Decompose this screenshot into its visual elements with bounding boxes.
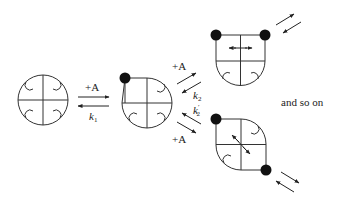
step2a-forward-label: +A — [172, 60, 186, 72]
binding-pocket-icon — [223, 155, 231, 163]
state-2a-receptor — [211, 30, 271, 87]
reverse-arrow-icon — [276, 181, 294, 192]
step2b-reverse-label: k′2 — [193, 103, 200, 118]
step-1-equilibrium: +A k1 — [78, 81, 109, 124]
bound-ligand-dot — [261, 165, 272, 176]
state-2a-further-equilibrium — [276, 14, 301, 33]
binding-pocket-icon — [251, 72, 258, 79]
step1-reverse-label: k1 — [89, 110, 98, 124]
bound-ligand-dot — [211, 114, 222, 125]
step2a-reverse-label: k2 — [193, 89, 202, 103]
forward-arrow-icon — [281, 172, 299, 183]
forward-arrow-icon — [177, 122, 196, 133]
bound-ligand-dot — [120, 73, 131, 84]
step2b-forward-label: +A — [172, 133, 186, 145]
bound-ligand-dot — [211, 30, 222, 41]
binding-pocket-icon — [25, 82, 33, 90]
binding-pocket-icon — [157, 113, 165, 121]
forward-arrow-icon — [177, 73, 196, 84]
state-0-receptor — [18, 75, 68, 125]
binding-pocket-icon — [53, 82, 61, 90]
reverse-arrow-icon — [182, 82, 201, 93]
state-2b-further-equilibrium — [276, 172, 299, 192]
reverse-arrow-icon — [283, 22, 301, 33]
step-2b-equilibrium: k′2 +A — [172, 103, 201, 145]
step-2a-equilibrium: +A k2 — [172, 60, 202, 103]
forward-arrow-icon — [276, 14, 294, 25]
binding-scheme-diagram: +A k1 +A k2 k′2 +A — [0, 0, 338, 201]
binding-pocket-icon — [129, 113, 137, 121]
binding-pocket-icon — [25, 110, 33, 118]
step1-forward-label: +A — [85, 81, 99, 93]
state-2b-receptor — [211, 114, 272, 176]
state-1-receptor — [120, 73, 173, 129]
binding-pocket-icon — [53, 110, 61, 118]
continuation-label: and so on — [281, 96, 324, 108]
binding-pocket-icon — [251, 126, 259, 134]
bound-ligand-dot — [260, 30, 271, 41]
binding-pocket-icon — [223, 72, 230, 79]
binding-pocket-icon — [157, 84, 165, 92]
